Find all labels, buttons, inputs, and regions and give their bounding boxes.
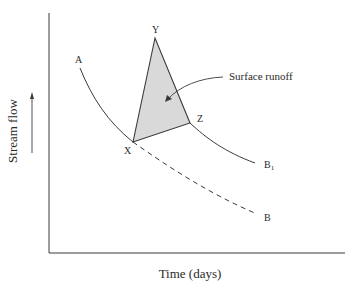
label-a: A [75, 55, 82, 65]
label-y: Y [152, 25, 159, 35]
up-arrow-icon [30, 92, 34, 99]
surface-runoff-region [133, 38, 190, 142]
recession-curve-x-b-dashed [133, 142, 257, 214]
recession-curve-a-x [80, 68, 133, 142]
label-b: B [264, 213, 271, 223]
y-axis-title: Stream flow [6, 99, 19, 163]
label-b1-main: B [264, 159, 271, 170]
label-b1-subscript: 1 [271, 164, 275, 172]
label-b1: B1 [264, 160, 274, 173]
label-z: Z [197, 114, 203, 124]
label-x: X [124, 146, 131, 156]
surface-runoff-annotation: Surface runoff [229, 71, 293, 82]
recession-curve-z-b1 [190, 123, 255, 163]
x-axis-title: Time (days) [159, 267, 222, 280]
